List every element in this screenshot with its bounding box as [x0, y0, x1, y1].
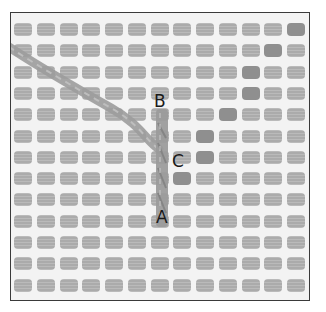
point-label-c: C — [172, 153, 184, 170]
canvas-figure-frame: B C A — [10, 12, 310, 301]
point-label-a: A — [156, 209, 168, 226]
point-label-b: B — [154, 93, 166, 110]
yarn-thread — [11, 13, 310, 301]
